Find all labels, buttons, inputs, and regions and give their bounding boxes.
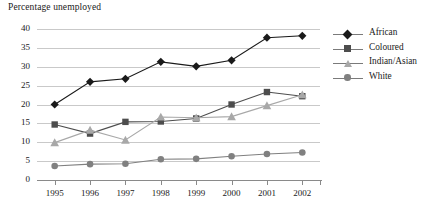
- x-axis-tick-label: 2001: [247, 188, 287, 198]
- chart-container: Percentage unemployed African Coloured I…: [0, 0, 425, 212]
- data-point-diamond: [227, 56, 235, 64]
- x-axis-tick-label: 2002: [282, 188, 322, 198]
- legend-label: Coloured: [369, 42, 404, 52]
- x-axis-tick: [125, 181, 126, 185]
- data-point-circle: [122, 160, 129, 167]
- data-point-triangle: [50, 138, 59, 146]
- triangle-marker-icon: [344, 60, 352, 67]
- y-axis-tick-label: 40: [4, 23, 30, 33]
- data-point-circle: [51, 163, 58, 170]
- x-axis-tick-label: 1996: [70, 188, 110, 198]
- legend-item-white[interactable]: White: [333, 72, 425, 87]
- data-point-diamond: [51, 100, 59, 108]
- data-point-square: [228, 101, 234, 107]
- data-point-diamond: [192, 62, 200, 70]
- y-axis-tick-label: 35: [4, 42, 30, 52]
- circle-marker-icon: [344, 74, 351, 81]
- data-point-triangle: [263, 101, 272, 109]
- x-axis-tick: [320, 181, 321, 185]
- data-point-circle: [193, 156, 200, 163]
- data-point-circle: [299, 149, 306, 156]
- y-axis-tick-label: 15: [4, 117, 30, 127]
- data-point-diamond: [263, 34, 271, 42]
- diamond-marker-icon: [343, 29, 353, 39]
- data-point-circle: [87, 161, 94, 168]
- data-point-circle: [158, 156, 165, 163]
- data-point-square: [264, 89, 270, 95]
- legend-item-coloured[interactable]: Coloured: [333, 43, 425, 58]
- y-axis-tick-label: 5: [4, 155, 30, 165]
- chart-legend: African Coloured Indian/Asian White: [333, 28, 425, 86]
- legend-item-indian-asian[interactable]: Indian/Asian: [333, 57, 425, 72]
- x-axis-tick: [90, 181, 91, 185]
- legend-item-african[interactable]: African: [333, 28, 425, 43]
- x-axis-tick: [55, 181, 56, 185]
- legend-label: African: [369, 27, 397, 37]
- x-axis-tick-label: 1995: [35, 188, 75, 198]
- y-axis-tick-label: 25: [4, 80, 30, 90]
- x-axis-tick-label: 1998: [141, 188, 181, 198]
- y-axis-tick-label: 30: [4, 61, 30, 71]
- y-axis-tick-label: 10: [4, 136, 30, 146]
- legend-label: Indian/Asian: [369, 56, 417, 66]
- x-axis-tick-label: 1997: [105, 188, 145, 198]
- x-axis-tick: [161, 181, 162, 185]
- x-axis-tick-label: 1999: [176, 188, 216, 198]
- data-point-diamond: [157, 58, 165, 66]
- x-axis-tick-label: 2000: [212, 188, 252, 198]
- data-point-square: [51, 121, 57, 127]
- x-axis-tick: [232, 181, 233, 185]
- square-marker-icon: [344, 45, 351, 52]
- y-axis-tick-label: 20: [4, 99, 30, 109]
- x-axis-tick: [267, 181, 268, 185]
- x-axis-tick: [196, 181, 197, 185]
- data-point-circle: [228, 153, 235, 160]
- x-axis-tick: [302, 181, 303, 185]
- y-axis-tick-label: 0: [4, 174, 30, 184]
- data-point-diamond: [298, 32, 306, 40]
- data-point-square: [122, 119, 128, 125]
- data-point-diamond: [121, 75, 129, 83]
- data-point-circle: [264, 151, 271, 158]
- series-line-coloured: [55, 92, 303, 134]
- data-point-triangle: [86, 126, 95, 134]
- legend-label: White: [369, 71, 392, 81]
- data-point-diamond: [86, 78, 94, 86]
